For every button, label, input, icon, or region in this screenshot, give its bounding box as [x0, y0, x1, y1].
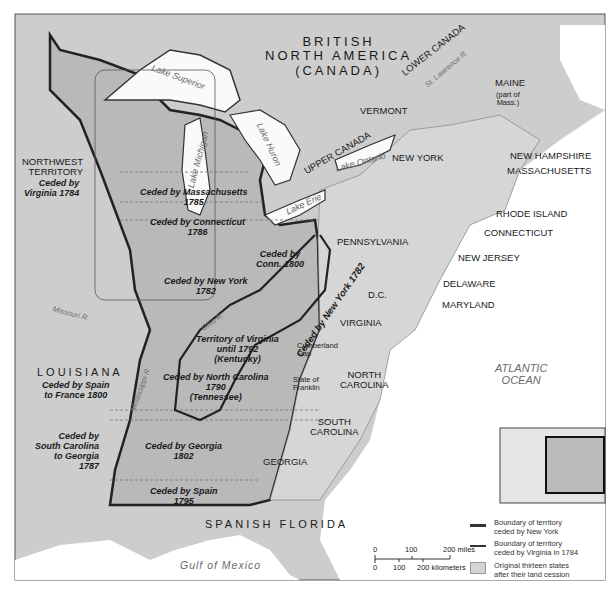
- scale-km-200: 200 kilometers: [417, 564, 466, 572]
- label-atlantic-2: OCEAN: [495, 374, 547, 386]
- label-ceded-connecticut: Ceded by Connecticut 1786: [150, 218, 245, 238]
- label-south-carolina: SOUTH CAROLINA: [310, 417, 359, 438]
- label-north-carolina-2: CAROLINA: [340, 380, 389, 390]
- label-canada: (CANADA): [265, 64, 412, 78]
- legend-label: Boundary of territory ceded by Virginia …: [494, 539, 578, 557]
- label-ceded-conn1800-2: Conn. 1800: [256, 260, 304, 270]
- label-ceded-ny-2: 1782: [164, 287, 248, 297]
- label-state-of-franklin: State of Franklin: [293, 376, 320, 393]
- label-north-carolina: NORTH CAROLINA: [340, 370, 389, 391]
- legend-orig-2: after their land cession: [494, 570, 569, 579]
- label-vermont: VERMONT: [360, 106, 408, 116]
- label-new-hampshire: NEW HAMPSHIRE: [510, 151, 591, 161]
- legend-item-ny-boundary: Boundary of territory ceded by New York: [470, 518, 562, 536]
- label-new-jersey: NEW JERSEY: [458, 253, 520, 263]
- legend-label: Boundary of territory ceded by New York: [494, 518, 562, 536]
- legend-ny-2: ceded by New York: [494, 527, 562, 536]
- label-territory-virginia: Territory of Virginia until 1792 (Kentuc…: [196, 335, 279, 365]
- label-ceded-conn-1800: Ceded by Conn. 1800: [256, 250, 304, 270]
- label-louisiana-note: Ceded by Spain to France 1800: [42, 381, 110, 401]
- label-rhode-island: RHODE ISLAND: [496, 209, 567, 219]
- label-ceded-spain: Ceded by Spain 1795: [150, 487, 218, 507]
- legend-line-icon: [470, 524, 486, 527]
- inset-highlight: [546, 437, 604, 493]
- label-atlantic-ocean: ATLANTIC OCEAN: [495, 362, 547, 386]
- label-northwest-note2: Virginia 1784: [24, 189, 79, 199]
- label-dc: D.C.: [368, 290, 387, 300]
- label-maine-note2: Mass.): [496, 99, 520, 107]
- label-virginia: VIRGINIA: [340, 318, 382, 328]
- legend-orig-1: Original thirteen states: [494, 561, 569, 570]
- label-ceded-sc-4: 1787: [35, 462, 99, 472]
- label-northwest-2: TERRITORY: [22, 167, 83, 177]
- label-maine-note: (part of Mass.): [496, 91, 520, 108]
- label-northwest-territory: NORTHWEST TERRITORY: [22, 157, 83, 178]
- label-virginia-territory-3: (Kentucky): [196, 355, 279, 365]
- legend-line-icon: [470, 545, 486, 547]
- label-ceded-georgia: Ceded by Georgia 1802: [145, 442, 222, 462]
- label-connecticut: CONNECTICUT: [484, 228, 553, 238]
- label-ceded-new-york: Ceded by New York 1782: [164, 277, 248, 297]
- label-louisiana-note2: to France 1800: [42, 391, 110, 401]
- label-north-america: NORTH AMERICA: [265, 49, 412, 63]
- legend-box-icon: [470, 562, 486, 574]
- label-louisiana: LOUISIANA: [37, 366, 123, 378]
- label-massachusetts: MASSACHUSETTS: [507, 166, 591, 176]
- label-maine: MAINE: [495, 78, 525, 88]
- label-pennsylvania: PENNSYLVANIA: [337, 237, 408, 247]
- label-delaware: DELAWARE: [443, 279, 496, 289]
- label-atlantic-1: ATLANTIC: [495, 362, 547, 374]
- legend-item-va-boundary: Boundary of territory ceded by Virginia …: [470, 539, 578, 557]
- label-south-carolina-2: CAROLINA: [310, 427, 359, 437]
- label-ceded-south-carolina: Ceded by South Carolina to Georgia 1787: [35, 432, 99, 472]
- legend-label: Original thirteen states after their lan…: [494, 561, 569, 579]
- scale-miles-100: 100: [405, 546, 418, 554]
- label-spanish-florida: SPANISH FLORIDA: [205, 518, 348, 530]
- label-ceded-nc-3: (Tennessee): [163, 393, 269, 403]
- label-maryland: MARYLAND: [442, 300, 495, 310]
- label-gulf-of-mexico: Gulf of Mexico: [180, 560, 261, 572]
- label-ceded-massachusetts: Ceded by Massachusetts 1785: [140, 188, 248, 208]
- map-canvas: [0, 0, 615, 591]
- label-ceded-conn-2: 1786: [150, 228, 245, 238]
- label-new-york: NEW YORK: [392, 153, 444, 163]
- label-ceded-mass-2: 1785: [140, 198, 248, 208]
- scale-km-100: 100: [393, 564, 406, 572]
- legend-ny-1: Boundary of territory: [494, 518, 562, 527]
- label-georgia: GEORGIA: [263, 457, 307, 467]
- label-ceded-ga-2: 1802: [145, 452, 222, 462]
- legend-item-original-states: Original thirteen states after their lan…: [470, 561, 569, 579]
- label-franklin-2: Franklin: [293, 384, 320, 392]
- label-ceded-spain-2: 1795: [150, 497, 218, 507]
- scale-miles-0: 0: [373, 546, 377, 554]
- scale-km-0: 0: [373, 564, 377, 572]
- legend-va-2: ceded by Virginia in 1784: [494, 548, 578, 557]
- legend-va-1: Boundary of territory: [494, 539, 578, 548]
- label-ceded-north-carolina: Ceded by North Carolina 1790 (Tennessee): [163, 373, 269, 403]
- label-northwest-note: Ceded by Virginia 1784: [24, 179, 79, 199]
- label-british: BRITISH: [265, 35, 412, 49]
- label-british-north-america: BRITISH NORTH AMERICA (CANADA): [265, 35, 412, 78]
